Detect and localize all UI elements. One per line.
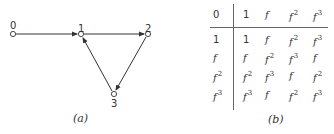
table-cell: 1: [243, 34, 249, 45]
node-label-1: 1: [78, 24, 84, 34]
table-cell: f3: [289, 52, 298, 65]
table-cell: f3: [313, 34, 322, 47]
caption-b: (b): [268, 113, 284, 126]
table-cell: f2: [243, 70, 252, 83]
table-cell: f: [243, 52, 247, 63]
edge-2-3: [116, 37, 146, 90]
node-label-0: 0: [10, 21, 16, 31]
table-cell: f: [289, 70, 293, 81]
table-cell: f: [265, 34, 269, 45]
node-label-3: 3: [111, 99, 117, 109]
table-horizontal-rule: [210, 27, 328, 28]
row-header: f3: [213, 89, 222, 102]
column-header: f3: [313, 9, 322, 22]
table-cell: f: [265, 89, 269, 100]
row-header: f2: [213, 70, 222, 83]
row-header: 1: [213, 34, 219, 45]
table-vertical-rule: [233, 4, 234, 110]
table-corner: 0: [213, 9, 219, 20]
node-label-2: 2: [145, 24, 151, 34]
table-cell: f3: [243, 89, 252, 102]
table-cell: f2: [313, 70, 322, 83]
caption-a: (a): [73, 112, 88, 125]
table-cell: f3: [265, 70, 274, 83]
column-header: f2: [289, 9, 298, 22]
row-header: f: [213, 52, 217, 63]
node-3: [111, 91, 116, 96]
table-cell: f: [313, 52, 317, 63]
edge-3-1: [83, 38, 112, 91]
table-cell: f2: [265, 52, 274, 65]
column-header: 1: [243, 9, 249, 20]
column-header: f: [265, 9, 269, 20]
table-cell: f2: [289, 89, 298, 102]
table-cell: f2: [289, 34, 298, 47]
node-0: [10, 31, 15, 36]
table-cell: f3: [313, 89, 322, 102]
